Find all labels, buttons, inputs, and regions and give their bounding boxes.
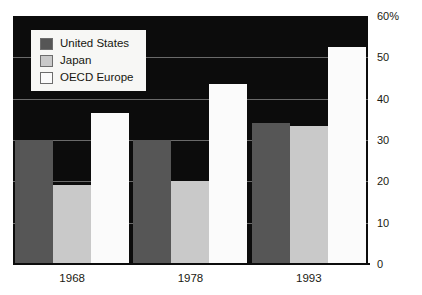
- bar-group-1978: [131, 16, 249, 264]
- x-tick-label: 1978: [131, 272, 249, 284]
- bar-1978-oecd-europe: [209, 84, 247, 264]
- bar-1993-united-states: [252, 123, 290, 264]
- y-tick-label: 40: [377, 94, 389, 105]
- bar-1993-oecd-europe: [328, 47, 366, 264]
- bar-1978-japan: [171, 181, 209, 264]
- legend-item-oecd-europe: OECD Europe: [40, 71, 134, 84]
- bar-1968-oecd-europe: [91, 113, 129, 264]
- x-tick-label: 1968: [13, 272, 131, 284]
- x-tick-label: 1993: [250, 272, 368, 284]
- bar-1993-japan: [290, 126, 328, 264]
- legend: United States Japan OECD Europe: [31, 30, 146, 91]
- legend-swatch-united-states: [40, 38, 53, 50]
- legend-label-oecd-europe: OECD Europe: [60, 71, 134, 84]
- legend-swatch-oecd-europe: [40, 72, 53, 84]
- y-tick-label: 20: [377, 176, 389, 187]
- bar-1978-united-states: [133, 140, 171, 264]
- x-axis-baseline: [13, 263, 370, 265]
- y-tick-label: 50: [377, 52, 389, 63]
- bar-chart: 60%50403020100 196819781993 United State…: [0, 0, 422, 295]
- bar-1968-japan: [53, 185, 91, 264]
- legend-label-japan: Japan: [60, 54, 91, 67]
- bar-1968-united-states: [15, 140, 53, 264]
- y-tick-label: 60%: [377, 11, 399, 22]
- y-tick-label: 10: [377, 218, 389, 229]
- legend-item-japan: Japan: [40, 54, 134, 67]
- y-tick-label: 0: [377, 259, 383, 270]
- legend-label-united-states: United States: [60, 37, 129, 50]
- bar-group-1993: [250, 16, 368, 264]
- legend-item-united-states: United States: [40, 37, 134, 50]
- legend-swatch-japan: [40, 55, 53, 67]
- y-tick-label: 30: [377, 135, 389, 146]
